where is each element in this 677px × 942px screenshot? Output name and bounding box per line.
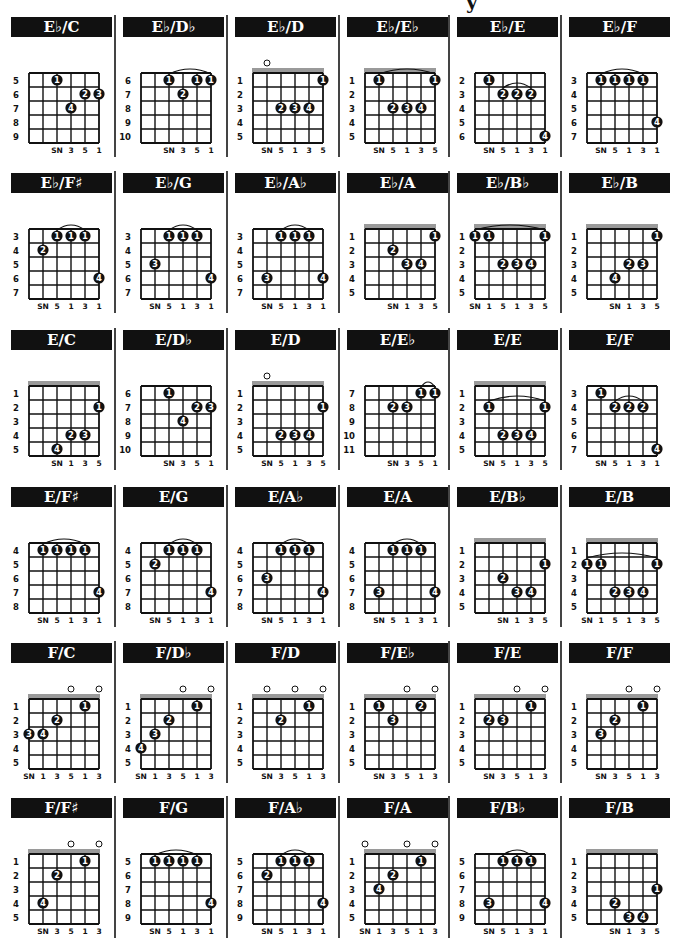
svg-text:1: 1 bbox=[432, 231, 438, 241]
finger-dot: 3 bbox=[261, 572, 272, 583]
svg-text:2: 2 bbox=[500, 573, 506, 583]
chord-diagram: E/B12345111234SN15135 bbox=[563, 487, 675, 637]
fret-number: 1 bbox=[571, 702, 577, 712]
interval-label: 1 bbox=[68, 302, 73, 311]
chord-diagram: F/E12345123SN3513 bbox=[451, 643, 563, 793]
fretboard-grid: 5678911114SN5131 bbox=[117, 832, 229, 942]
finger-dot: 4 bbox=[637, 911, 648, 922]
fret-number: 9 bbox=[125, 913, 131, 923]
finger-dot: 3 bbox=[401, 401, 412, 412]
fret-number: 3 bbox=[349, 260, 355, 270]
svg-text:2: 2 bbox=[612, 898, 618, 908]
fret-number: 4 bbox=[125, 246, 131, 256]
fretboard-grid: 12345111234SN15135 bbox=[563, 521, 675, 633]
chord-name: E/E♭ bbox=[347, 330, 448, 350]
interval-label: 1 bbox=[542, 146, 547, 155]
svg-text:2: 2 bbox=[278, 103, 284, 113]
finger-dot: 4 bbox=[303, 429, 314, 440]
finger-dot: 3 bbox=[401, 102, 412, 113]
fret-number: 3 bbox=[571, 730, 577, 740]
finger-dot: 1 bbox=[595, 387, 606, 398]
interval-label: 5 bbox=[404, 772, 409, 781]
finger-dot: 1 bbox=[539, 230, 550, 241]
finger-dot: 1 bbox=[149, 855, 160, 866]
interval-label: 5 bbox=[500, 146, 505, 155]
interval-label: 3 bbox=[640, 146, 645, 155]
finger-dot: 2 bbox=[497, 429, 508, 440]
fret-number: 4 bbox=[459, 104, 465, 114]
fret-number: 5 bbox=[237, 445, 243, 455]
svg-text:1: 1 bbox=[472, 231, 478, 241]
interval-label: 3 bbox=[654, 772, 659, 781]
finger-dot: 4 bbox=[37, 897, 48, 908]
interval-label: 5 bbox=[432, 302, 437, 311]
interval-label: SN bbox=[261, 927, 273, 936]
fret-number: 5 bbox=[237, 857, 243, 867]
fret-number: 7 bbox=[237, 588, 243, 598]
svg-text:2: 2 bbox=[612, 715, 618, 725]
interval-label: 3 bbox=[194, 302, 199, 311]
svg-text:1: 1 bbox=[166, 388, 172, 398]
interval-label: 1 bbox=[514, 927, 519, 936]
fret-number: 4 bbox=[459, 431, 465, 441]
finger-dot: 4 bbox=[651, 443, 662, 454]
interval-label: 1 bbox=[432, 616, 437, 625]
fret-number: 1 bbox=[349, 702, 355, 712]
page-title-fragment: y bbox=[466, 0, 478, 14]
svg-text:1: 1 bbox=[166, 231, 172, 241]
fret-number: 4 bbox=[459, 588, 465, 598]
svg-text:1: 1 bbox=[612, 75, 618, 85]
chord-name: E♭/D♭ bbox=[123, 17, 224, 37]
chord-name: F/B bbox=[569, 798, 670, 818]
fret-number: 5 bbox=[237, 560, 243, 570]
chord-diagram: E/F3456712224SN5131 bbox=[563, 330, 675, 480]
finger-dot: 4 bbox=[317, 272, 328, 283]
chord-name: E♭/G bbox=[123, 173, 224, 193]
interval-label: 1 bbox=[418, 772, 423, 781]
interval-label: SN bbox=[37, 302, 49, 311]
svg-text:1: 1 bbox=[292, 856, 298, 866]
open-string-icon bbox=[432, 841, 438, 847]
fret-number: 7 bbox=[237, 885, 243, 895]
interval-label: SN bbox=[497, 616, 509, 625]
interval-label: 3 bbox=[528, 616, 533, 625]
fret-number: 5 bbox=[13, 560, 19, 570]
finger-dot: 1 bbox=[637, 74, 648, 85]
svg-text:2: 2 bbox=[640, 402, 646, 412]
fret-number: 7 bbox=[571, 132, 577, 142]
svg-text:2: 2 bbox=[626, 402, 632, 412]
finger-dot: 2 bbox=[177, 88, 188, 99]
svg-text:1: 1 bbox=[152, 856, 158, 866]
fret-number: 10 bbox=[119, 132, 131, 142]
fret-number: 6 bbox=[125, 389, 131, 399]
svg-text:1: 1 bbox=[166, 856, 172, 866]
chord-diagram: F/F♯12345124SN3513 bbox=[5, 798, 117, 942]
interval-label: 5 bbox=[542, 616, 547, 625]
svg-text:4: 4 bbox=[320, 898, 326, 908]
svg-text:4: 4 bbox=[432, 587, 438, 597]
interval-label: 3 bbox=[54, 772, 59, 781]
finger-dot: 1 bbox=[539, 401, 550, 412]
svg-text:1: 1 bbox=[542, 402, 548, 412]
svg-text:3: 3 bbox=[514, 259, 520, 269]
svg-text:4: 4 bbox=[528, 587, 534, 597]
fret-number: 9 bbox=[125, 118, 131, 128]
finger-dot: 2 bbox=[511, 88, 522, 99]
svg-text:1: 1 bbox=[528, 701, 534, 711]
fret-number: 5 bbox=[125, 260, 131, 270]
fret-number: 5 bbox=[459, 602, 465, 612]
interval-label: 5 bbox=[542, 459, 547, 468]
fret-number: 8 bbox=[459, 899, 465, 909]
interval-label: 3 bbox=[54, 927, 59, 936]
finger-dot: 2 bbox=[387, 869, 398, 880]
svg-text:3: 3 bbox=[404, 103, 410, 113]
fretboard-grid: 5678911134SN5131 bbox=[451, 832, 563, 942]
svg-text:2: 2 bbox=[418, 701, 424, 711]
interval-label: 1 bbox=[654, 146, 659, 155]
fret-number: 1 bbox=[13, 389, 19, 399]
fret-number: 3 bbox=[237, 232, 243, 242]
chord-diagram: E/A4567811134SN5131 bbox=[341, 487, 453, 637]
svg-text:3: 3 bbox=[514, 430, 520, 440]
chord-diagram: F/D♭123451234SN13513 bbox=[117, 643, 229, 793]
chord-name: F/F bbox=[569, 643, 670, 663]
